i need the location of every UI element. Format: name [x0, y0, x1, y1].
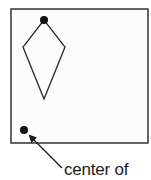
- center-of-label: center of: [64, 160, 128, 180]
- kite-top-vertex-dot: [40, 16, 48, 24]
- square-frame: [11, 9, 148, 143]
- center-point-dot: [20, 126, 28, 134]
- diagram-canvas: [0, 0, 151, 180]
